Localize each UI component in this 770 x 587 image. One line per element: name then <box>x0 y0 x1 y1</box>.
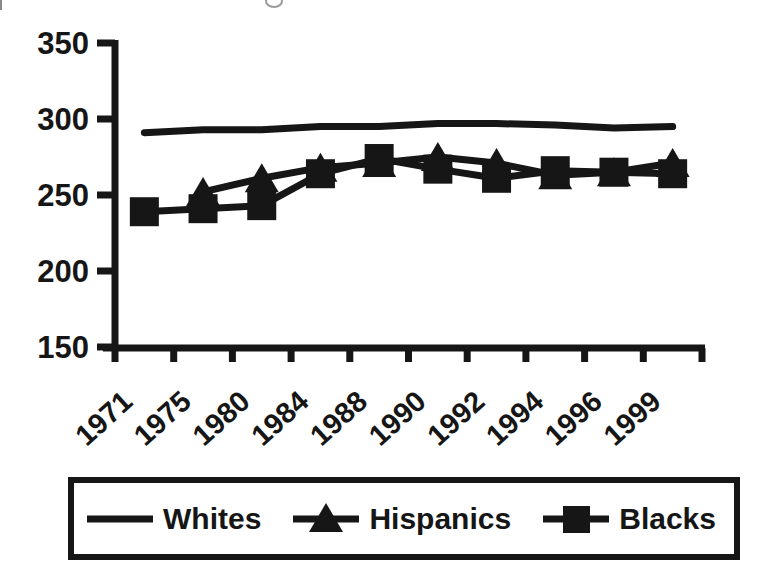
figure-page: 1502002503003501971197519801984198819901… <box>0 0 770 587</box>
marker-square-blacks <box>189 194 218 223</box>
x-tick-label: 1971 <box>69 385 138 452</box>
legend-label-hispanics: Hispanics <box>369 502 511 536</box>
legend: Whites Hispanics Blacks <box>68 477 740 560</box>
legend-item-blacks: Blacks <box>540 499 716 539</box>
legend-item-hispanics: Hispanics <box>290 499 511 539</box>
x-tick-label: 1992 <box>421 385 490 452</box>
y-tick-label: 300 <box>37 102 89 137</box>
x-tick-label: 1975 <box>128 385 197 452</box>
marker-square-blacks <box>365 144 394 173</box>
hispanics-triangle-swatch <box>290 499 362 539</box>
marker-square-blacks <box>247 191 276 220</box>
y-tick-label: 200 <box>37 254 89 289</box>
blacks-square-swatch <box>540 499 612 539</box>
x-tick-label: 1988 <box>304 385 373 452</box>
marker-square-blacks <box>599 158 628 187</box>
x-tick-label: 1999 <box>597 385 666 452</box>
x-tick-label: 1990 <box>363 385 432 452</box>
y-tick-label: 350 <box>37 26 89 61</box>
marker-square-blacks <box>130 197 159 226</box>
marker-square-blacks <box>658 159 687 188</box>
marker-square-blacks <box>541 156 570 185</box>
x-tick-label: 1984 <box>245 385 314 452</box>
legend-label-blacks: Blacks <box>619 502 716 536</box>
legend-item-whites: Whites <box>84 499 261 539</box>
whites-line-swatch <box>84 499 156 539</box>
series-line-whites <box>144 124 672 133</box>
legend-label-whites: Whites <box>163 502 261 536</box>
y-tick-label: 150 <box>37 330 89 365</box>
y-tick-label: 250 <box>37 178 89 213</box>
x-tick-label: 1996 <box>539 385 608 452</box>
x-tick-label: 1980 <box>186 385 255 452</box>
marker-square-blacks <box>306 159 335 188</box>
marker-square-blacks <box>482 164 511 193</box>
x-tick-label: 1994 <box>480 385 549 452</box>
marker-square-blacks <box>423 155 452 184</box>
chart-canvas: 1502002503003501971197519801984198819901… <box>0 0 770 470</box>
